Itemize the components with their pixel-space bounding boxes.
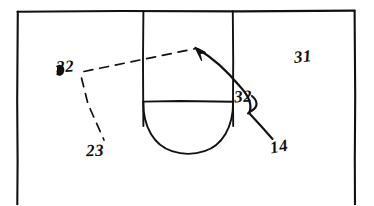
recess-shoulder-line: [143, 101, 233, 102]
leader-line-22-to-arrowhead: [84, 49, 196, 72]
leader-line-14-to-32: [250, 114, 273, 140]
rect-left-edge: [17, 12, 18, 206]
u-shaped-recess: [143, 11, 233, 154]
outer-rectangle-outline: [17, 11, 355, 205]
rect-right-edge: [355, 11, 356, 205]
reference-numeral-32: 32: [233, 87, 252, 105]
figure-drawing-canvas: [0, 0, 374, 205]
leader-line-22-to-23: [82, 78, 105, 140]
reference-numeral-14: 14: [269, 137, 290, 157]
rect-top-edge: [18, 11, 355, 12]
patent-figure: 22 23 31 32 14: [0, 0, 374, 205]
reference-numeral-22: 22: [55, 57, 74, 75]
recess-bottom-arc: [143, 102, 233, 154]
reference-numeral-31: 31: [293, 47, 313, 66]
reference-numeral-23: 23: [86, 142, 105, 160]
